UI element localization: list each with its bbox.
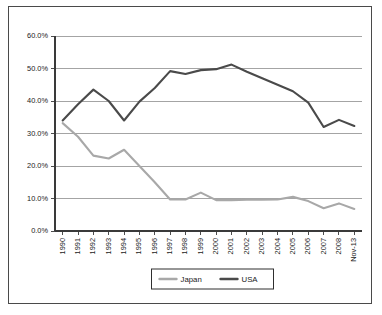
x-axis-tick-label: 2001 xyxy=(226,238,235,254)
x-axis-tick-label: 1993 xyxy=(104,238,113,254)
chart-plot-area: 0.0%10.0%20.0%30.0%40.0%50.0%60.0%199019… xyxy=(9,7,373,305)
y-axis-tick-label: 0.0% xyxy=(31,226,48,235)
chart-legend: JapanUSA xyxy=(152,269,274,289)
x-axis-tick-label: 2000 xyxy=(211,238,220,254)
legend-label-usa: USA xyxy=(242,275,259,284)
series-line-usa xyxy=(63,65,355,127)
x-axis-tick-label: 1998 xyxy=(180,238,189,254)
y-axis-tick-label: 50.0% xyxy=(27,64,48,73)
x-axis-tick-label: 1990 xyxy=(58,238,67,254)
x-axis-tick-label: 2002 xyxy=(242,238,251,254)
x-axis-tick-label: 2008 xyxy=(334,238,343,254)
x-axis-tick-label: 2004 xyxy=(273,238,282,254)
chart-frame: 0.0%10.0%20.0%30.0%40.0%50.0%60.0%199019… xyxy=(8,6,372,304)
x-axis-tick-label: 1997 xyxy=(165,238,174,254)
x-axis-labels: 1990199119921993199419951996199719981999… xyxy=(58,231,359,262)
y-axis-tick-label: 20.0% xyxy=(27,161,48,170)
x-axis-tick-label: 1991 xyxy=(73,238,82,254)
legend-label-japan: Japan xyxy=(181,275,202,284)
x-axis-tick-label: 1992 xyxy=(88,238,97,254)
y-axis-tick-label: 60.0% xyxy=(27,31,48,40)
x-axis-tick-label: 2006 xyxy=(303,238,312,254)
x-axis-tick-label: 2007 xyxy=(319,238,328,254)
y-axis-tick-label: 10.0% xyxy=(27,194,48,203)
y-axis-tick-label: 40.0% xyxy=(27,96,48,105)
x-axis-tick-label: 1996 xyxy=(150,238,159,254)
x-axis-tick-label: 2005 xyxy=(288,238,297,254)
x-axis-tick-label: 1999 xyxy=(196,238,205,254)
x-axis-tick-label: Nov-13 xyxy=(349,238,358,262)
x-axis-tick-label: 2003 xyxy=(257,238,266,254)
gridlines: 0.0%10.0%20.0%30.0%40.0%50.0%60.0% xyxy=(27,31,362,235)
y-axis-tick-label: 30.0% xyxy=(27,129,48,138)
x-axis-tick-label: 1995 xyxy=(134,238,143,254)
series-group xyxy=(63,65,355,209)
line-chart: 0.0%10.0%20.0%30.0%40.0%50.0%60.0%199019… xyxy=(9,7,373,305)
x-axis-tick-label: 1994 xyxy=(119,238,128,254)
